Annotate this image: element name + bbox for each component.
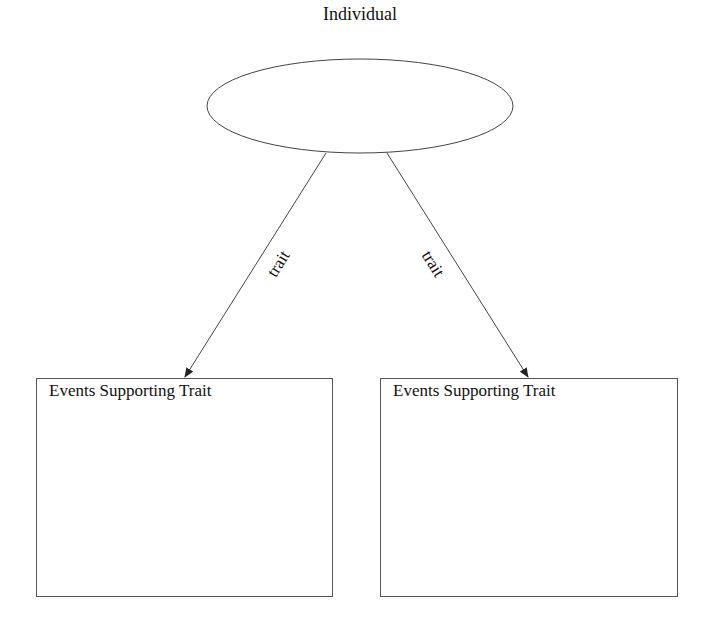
individual-label: Individual — [310, 4, 410, 25]
events-box-title: Events Supporting Trait — [49, 381, 211, 401]
trait-edge-left — [185, 153, 326, 377]
events-box-right: Events Supporting Trait — [380, 378, 678, 597]
trait-edge-right — [387, 153, 528, 377]
individual-node — [207, 59, 513, 153]
events-box-left: Events Supporting Trait — [36, 378, 333, 597]
events-box-title: Events Supporting Trait — [393, 381, 555, 401]
